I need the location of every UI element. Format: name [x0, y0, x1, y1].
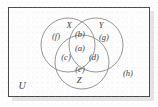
region-label-a: (a)	[75, 44, 85, 53]
set-label-y: Y	[99, 21, 104, 30]
region-label-g: (g)	[99, 33, 109, 42]
region-label-c: (c)	[61, 53, 70, 62]
region-label-e: (e)	[75, 65, 84, 74]
region-label-f: (f)	[52, 32, 60, 41]
universal-set-label: U	[18, 81, 25, 91]
venn-diagram-screenshot: X Y Z (f) (b) (g) (a) (c) (d) (e) (h) U	[0, 0, 158, 107]
region-label-h: (h)	[123, 69, 133, 78]
region-label-b: (b)	[75, 30, 85, 39]
set-label-x: X	[66, 21, 71, 30]
set-label-z: Z	[77, 76, 82, 85]
region-label-d: (d)	[89, 53, 99, 62]
